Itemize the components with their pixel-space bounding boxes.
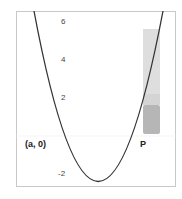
point-a-label: (a, 0) <box>25 139 46 149</box>
point-p-label: P <box>140 139 146 149</box>
plot-canvas <box>0 0 182 199</box>
y-tick-2: 2 <box>61 93 65 102</box>
bar-lower-segment <box>143 105 160 134</box>
y-tick-4: 4 <box>61 55 65 64</box>
y-tick-6: 6 <box>61 17 65 26</box>
bar-middle-segment <box>143 94 160 105</box>
y-tick-neg2: -2 <box>58 169 65 178</box>
